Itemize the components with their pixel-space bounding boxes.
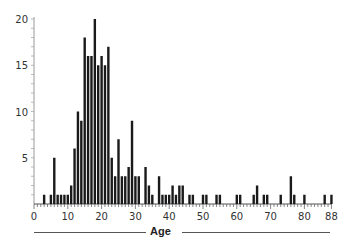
bar [84, 38, 86, 205]
bar [114, 176, 116, 204]
bar [215, 195, 217, 204]
bar [131, 121, 133, 204]
bar [290, 176, 292, 204]
y-tick-label: 10 [15, 107, 28, 118]
bar [219, 195, 221, 204]
bar [90, 56, 92, 204]
bar [293, 195, 295, 204]
x-tick-label: 88 [325, 211, 338, 222]
axis-label-rule-left [34, 232, 146, 233]
bar [124, 176, 126, 204]
bar [280, 195, 282, 204]
bar [127, 167, 129, 204]
bar [121, 176, 123, 204]
bar [104, 65, 106, 204]
bar [73, 149, 75, 205]
x-tick-label: 0 [31, 211, 37, 222]
bar [330, 195, 332, 204]
bar [253, 195, 255, 204]
bar [117, 139, 119, 204]
bar [205, 195, 207, 204]
x-tick-label: 40 [163, 211, 176, 222]
bar [175, 195, 177, 204]
bar [70, 186, 72, 205]
bar [323, 195, 325, 204]
bar [53, 158, 55, 204]
bar [178, 186, 180, 205]
y-tick-label: 20 [15, 14, 28, 25]
bar [100, 56, 102, 204]
bar [94, 19, 96, 204]
bar [165, 195, 167, 204]
axis-label-rule-right [182, 232, 330, 233]
x-tick-label: 10 [61, 211, 74, 222]
bar [67, 195, 69, 204]
bar [256, 186, 258, 205]
x-axis-label: Age [150, 225, 171, 237]
bar [111, 158, 113, 204]
x-tick-label: 70 [264, 211, 277, 222]
y-tick-label: 5 [22, 153, 28, 164]
bar [97, 65, 99, 204]
bar [148, 186, 150, 205]
bar [171, 186, 173, 205]
bar [263, 195, 265, 204]
bar [60, 195, 62, 204]
bar [107, 47, 109, 204]
bar [138, 176, 140, 204]
bar [182, 186, 184, 205]
bar [266, 195, 268, 204]
bar [56, 195, 58, 204]
bar [236, 195, 238, 204]
bar [87, 56, 89, 204]
bar [303, 195, 305, 204]
bar [80, 121, 82, 204]
bar [158, 176, 160, 204]
bar [151, 195, 153, 204]
bar [50, 195, 52, 204]
bar [188, 195, 190, 204]
bar [239, 195, 241, 204]
bar [134, 176, 136, 204]
bar [43, 195, 45, 204]
bar [168, 195, 170, 204]
bar [192, 195, 194, 204]
bar [161, 195, 163, 204]
x-tick-label: 50 [197, 211, 210, 222]
bar [202, 195, 204, 204]
age-histogram: 51015200102030405060708088 [0, 0, 347, 249]
bar [63, 195, 65, 204]
bar [144, 167, 146, 204]
x-tick-label: 30 [129, 211, 142, 222]
y-tick-label: 15 [15, 60, 28, 71]
x-tick-label: 60 [230, 211, 243, 222]
bar [77, 112, 79, 205]
x-tick-label: 80 [298, 211, 311, 222]
x-tick-label: 20 [95, 211, 108, 222]
